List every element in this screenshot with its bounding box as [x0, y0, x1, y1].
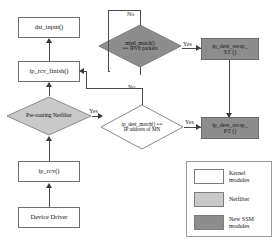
node-mip6-match[interactable]: mip6_match() == IPV6 packets	[98, 24, 182, 68]
legend-label-netfilter: Netfilter	[229, 196, 249, 203]
node-prerouting-netfilter[interactable]: Pre-routing Netfilter	[6, 96, 92, 136]
arrowhead-swap-pt-top	[226, 113, 232, 118]
connector-feedback-to-ip-rcv-finish	[86, 88, 143, 89]
legend-panel: Kernel modules Netfilter New SSM modules	[186, 161, 272, 237]
arrowhead-ip-rcv	[46, 183, 52, 188]
connector-mip6-no-down	[108, 10, 109, 71]
connector-feedback-riser	[86, 71, 87, 89]
edge-label-mip6-yes: Yes	[183, 41, 192, 47]
arrowhead-prerouting	[46, 136, 52, 141]
arrowhead-ip-dest-match-left	[98, 113, 103, 119]
connector-mip6-no-up	[140, 10, 141, 25]
connector-ip-rcv-to-prerouting	[49, 141, 50, 161]
ip-dest-match-diamond-shape	[100, 104, 184, 150]
connector-device-driver-to-ip-rcv	[49, 188, 50, 207]
edge-label-prerouting-yes: Yes	[89, 108, 98, 114]
connector-ip-rcv-finish-to-dst-input	[49, 43, 50, 61]
node-device-driver-label: Device Driver	[31, 214, 68, 221]
node-ip-rcv[interactable]: ip_rcv()	[18, 161, 80, 182]
arrowhead-dst-input	[46, 38, 52, 43]
legend-label-new-ssm-modules: New SSM modules	[229, 216, 254, 230]
connector-mip6-no-rail-join	[108, 71, 110, 72]
mip6-match-diamond-shape	[98, 24, 182, 68]
legend-swatch-kernel-modules	[194, 169, 224, 184]
arrowhead-swap-pt	[196, 124, 201, 130]
node-dst-input[interactable]: dst_input()	[18, 17, 80, 38]
connector-swap-st-to-swap-pt-rail	[229, 60, 230, 117]
legend-row-kernel: Kernel modules	[194, 169, 249, 184]
node-ip-dest-swap-st[interactable]: ip_dest_swap_ ST ()	[201, 38, 259, 60]
legend-row-ssm: New SSM modules	[194, 215, 254, 230]
node-ip-rcv-label: ip_rcv()	[39, 168, 60, 175]
node-device-driver[interactable]: Device Driver	[18, 207, 80, 228]
node-ip-dest-swap-st-label: ip_dest_swap_ ST ()	[212, 43, 248, 56]
edge-label-mip6-no: No	[127, 11, 134, 17]
connector-ip-dest-match-no-up	[142, 88, 143, 105]
arrowhead-ip-rcv-finish	[46, 82, 52, 87]
edge-label-ip-dest-match-no: No	[128, 84, 135, 90]
connector-prerouting-to-ip-rcv-finish	[49, 87, 50, 96]
node-ip-rcv-finish[interactable]: ip_rcv_finish()	[18, 61, 80, 82]
prerouting-diamond-shape	[6, 96, 92, 136]
edge-label-ip-dest-match-yes: Yes	[185, 119, 194, 125]
flowchart-canvas: dst_input() ip_rcv_finish() Pre-routing …	[0, 0, 278, 245]
connector-mip6-bottom-stub	[140, 67, 141, 75]
node-ip-dest-swap-pt[interactable]: ip_dest_swap_ PT ()	[201, 117, 259, 139]
legend-swatch-new-ssm-modules	[194, 215, 224, 230]
legend-swatch-netfilter	[194, 192, 224, 207]
arrowhead-ip-rcv-finish-feedback	[79, 68, 84, 74]
node-dst-input-label: dst_input()	[35, 24, 64, 31]
arrowhead-swap-st	[196, 45, 201, 51]
node-ip-rcv-finish-label: ip_rcv_finish()	[30, 68, 69, 75]
legend-label-kernel-modules: Kernel modules	[229, 170, 249, 184]
legend-row-netfilter: Netfilter	[194, 192, 249, 207]
connector-mip6-no-left	[108, 10, 141, 11]
node-ip-dest-match[interactable]: ip_dest_match() == IP address of MN	[100, 104, 184, 150]
node-ip-dest-swap-pt-label: ip_dest_swap_ PT ()	[212, 122, 248, 135]
